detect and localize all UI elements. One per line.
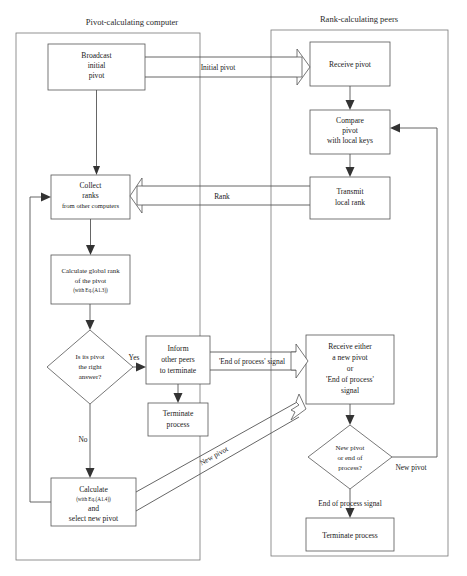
node-decision-new-line-0: New pivot [336, 444, 365, 451]
node-terminate-left-line-0: Terminate [163, 409, 194, 418]
node-inform-line-2: to terminate [160, 366, 197, 375]
node-broadcast-line-2: pivot [89, 71, 106, 80]
arrowhead-initial-pivot [297, 49, 310, 85]
arrowhead-end-of-process [291, 344, 308, 378]
node-compare-line-2: with local keys [327, 136, 373, 145]
node-decision-pivot-line-0: Is its pivot [75, 353, 104, 360]
edge-label-initial-pivot: Initial pivot [201, 63, 237, 72]
node-calcnew-line-2: select new pivot [69, 514, 119, 523]
arrowhead-yes-to-inform [136, 363, 146, 372]
arrowhead-collect-to-calcglobal [86, 245, 95, 255]
node-transmit-line-0: Transmit [336, 187, 364, 196]
node-receive-either-line-3: 'End of process' [326, 375, 374, 384]
edge-label-end-of-process-signal: End of process signal [318, 499, 381, 508]
arrowhead-feedback-into-compare [390, 124, 400, 133]
arrowhead-no-to-calcnew [86, 468, 95, 478]
arrowhead-broadcast-to-collect [93, 166, 100, 175]
flowchart-canvas: Pivot-calculating computer Rank-calculat… [0, 0, 467, 576]
node-terminate-left-line-1: process [167, 420, 190, 429]
node-compare-line-1: pivot [342, 126, 359, 135]
edge-label-rank: Rank [214, 192, 230, 201]
node-compare-line-0: Compare [336, 116, 364, 125]
node-decision-pivot-line-2: answer? [79, 373, 102, 380]
node-collect-line-0: Collect [80, 181, 103, 190]
node-receive-either-line-4: signal [341, 386, 359, 395]
node-calcglobal-line-0: Calculate global rank [61, 267, 120, 274]
arrowhead-calcnew-loop-in [41, 193, 51, 202]
arrowhead-rank [130, 178, 142, 213]
node-calcnew-note: (with Eq.(A1.4)) [76, 496, 111, 503]
edge-label-new-pivot-branch: New pivot [396, 463, 428, 472]
arrowhead-inform-to-terminate [174, 393, 183, 403]
node-receive-either-line-0: Receive either [328, 342, 372, 351]
node-receive-either-line-1: a new pivot [332, 353, 368, 362]
arrowhead-new-pivot-diag [291, 394, 306, 420]
node-collect-line-2: from other computers [62, 202, 120, 209]
lane-title-pivot: Pivot-calculating computer [86, 17, 178, 27]
node-receive-pivot-line-0: Receive pivot [329, 60, 372, 69]
flowchart-page: Pivot-calculating computer Rank-calculat… [0, 0, 467, 576]
lane-title-rank: Rank-calculating peers [320, 14, 398, 24]
node-transmit-line-1: local rank [335, 198, 365, 207]
arrowhead-compare-to-transmit [346, 167, 355, 177]
node-decision-new-line-1: or end of [338, 454, 364, 461]
arrowhead-receive-either-to-decision [346, 415, 355, 425]
edge-label-no: No [78, 435, 87, 444]
node-inform-line-0: Inform [167, 344, 188, 353]
node-calcglobal-note: (with Eq.(A1.3)) [73, 287, 108, 294]
node-calcglobal-line-1: of the pivot [75, 277, 106, 284]
node-terminate-right-line-0: Terminate process [322, 531, 377, 540]
edge-label-end-of-process: 'End of process' signal [219, 357, 285, 366]
node-broadcast-line-0: Broadcast [81, 51, 112, 60]
node-calcnew-line-1: and [88, 504, 99, 513]
edge-label-new-pivot-diag: New pivot [198, 444, 230, 467]
node-calcnew-line-0: Calculate [79, 485, 108, 494]
arrowhead-receive-to-compare [346, 100, 355, 110]
node-broadcast-line-1: initial [88, 61, 106, 70]
node-receive-either-line-2: or [347, 364, 354, 373]
node-decision-new-line-2: process? [338, 464, 362, 471]
arrowhead-calcglobal-to-decision [86, 320, 95, 330]
arrowhead-decision-to-terminate-right [346, 508, 355, 518]
edge-label-yes: Yes [129, 353, 140, 362]
node-decision-pivot-line-1: the right [78, 363, 101, 370]
node-inform-line-1: other peers [161, 355, 195, 364]
node-collect-line-1: ranks [82, 191, 98, 200]
